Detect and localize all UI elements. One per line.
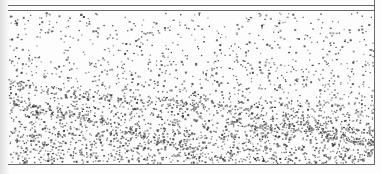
stipple-dot-field [0,0,381,174]
